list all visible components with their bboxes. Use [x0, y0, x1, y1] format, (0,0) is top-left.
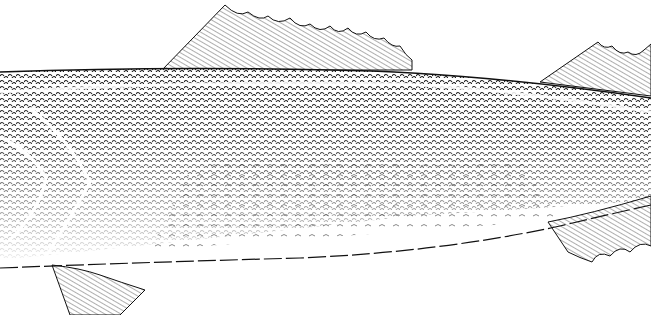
- pelvic-fin: [52, 265, 145, 315]
- fish-illustration: [0, 0, 651, 315]
- spiny-dorsal-fin: [162, 5, 412, 70]
- fish-drawing: [0, 0, 651, 315]
